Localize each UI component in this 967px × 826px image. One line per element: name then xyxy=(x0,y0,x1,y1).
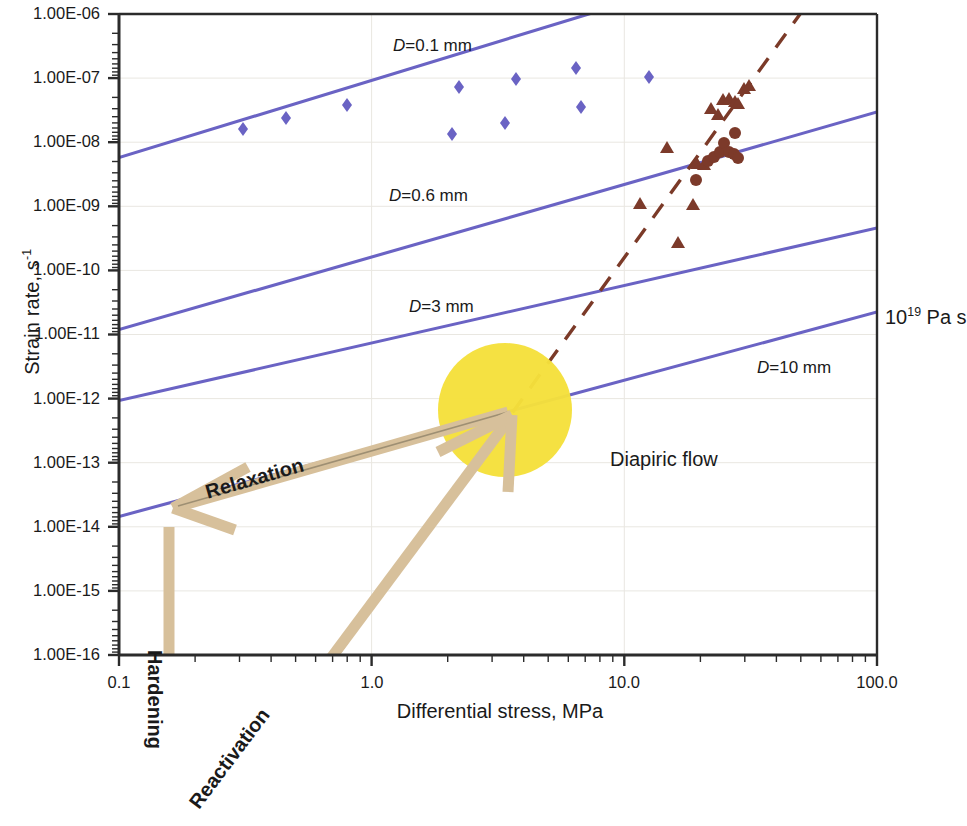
y-tick-label: 1.00E-10 xyxy=(0,260,100,279)
y-tick-label: 1.00E-14 xyxy=(0,517,100,536)
y-tick-label: 1.00E-11 xyxy=(0,324,100,343)
y-tick-label: 1.00E-12 xyxy=(0,389,100,408)
x-tick-label: 100.0 xyxy=(837,673,917,692)
x-axis-title: Differential stress, MPa xyxy=(300,700,700,723)
line-label-d-3mm: D=3 mm xyxy=(409,297,474,317)
data-point-circle xyxy=(690,174,702,186)
viscosity-label: 1019 Pa s xyxy=(885,305,967,329)
grain-size-value: =3 mm xyxy=(421,297,473,316)
line-label-d-10mm: D=10 mm xyxy=(757,358,831,378)
hardening-label: Hardening xyxy=(143,650,166,749)
viscosity-base: 10 xyxy=(885,306,907,328)
line-label-d-0-6mm: D=0.6 mm xyxy=(389,186,468,206)
y-tick-label: 1.00E-13 xyxy=(0,453,100,472)
grain-size-value: =0.6 mm xyxy=(401,186,468,205)
grain-size-symbol: D xyxy=(409,297,421,316)
data-point-circle xyxy=(732,152,744,164)
grain-size-symbol: D xyxy=(393,36,405,55)
y-tick-label: 1.00E-15 xyxy=(0,581,100,600)
x-tick-label: 10.0 xyxy=(584,673,664,692)
y-tick-label: 1.00E-16 xyxy=(0,645,100,664)
x-tick-label: 1.0 xyxy=(332,673,412,692)
grain-size-value: =0.1 mm xyxy=(405,36,472,55)
y-tick-label: 1.00E-09 xyxy=(0,196,100,215)
grain-size-symbol: D xyxy=(389,186,401,205)
y-tick-label: 1.00E-07 xyxy=(0,68,100,87)
diapiric-flow-label: Diapiric flow xyxy=(610,448,718,471)
viscosity-unit: Pa s xyxy=(921,306,967,328)
y-tick-label: 1.00E-08 xyxy=(0,132,100,151)
grain-size-value: =10 mm xyxy=(769,358,831,377)
y-tick-label: 1.00E-06 xyxy=(0,4,100,23)
viscosity-exponent: 19 xyxy=(907,305,921,319)
y-axis-major-ticks xyxy=(108,14,119,655)
x-axis-major-ticks xyxy=(119,655,877,666)
grain-size-symbol: D xyxy=(757,358,769,377)
line-label-d-0-1mm: D=0.1 mm xyxy=(393,36,472,56)
data-point-circle xyxy=(729,127,741,139)
